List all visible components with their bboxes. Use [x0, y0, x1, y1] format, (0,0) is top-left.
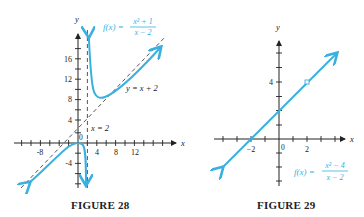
y-tick-label: 4 — [269, 78, 273, 87]
y-axis-label: y — [275, 22, 280, 32]
figure-28-caption: FIGURE 28 — [71, 199, 129, 211]
origin-label: 0 — [281, 143, 285, 152]
svg-text:x² + 1: x² + 1 — [132, 17, 152, 26]
figures-canvas: -8 4 8 12 16 12 8 4 -4 0 x y x = 2 y = x… — [0, 0, 364, 217]
oblique-asymptote-label: y = x + 2 — [125, 83, 159, 93]
hole-marker — [305, 80, 309, 84]
function-label-28: f(x) = x² + 1 x − 2 — [103, 17, 156, 37]
x-tick-label: 4 — [95, 148, 99, 157]
x-tick-label: -8 — [37, 148, 44, 157]
y-tick-label: 4 — [68, 116, 72, 125]
x-axis-label: x — [349, 134, 354, 144]
figure-29-caption: FIGURE 29 — [257, 199, 315, 211]
y-tick-label: 16 — [64, 55, 72, 64]
svg-text:x² − 4: x² − 4 — [324, 161, 344, 170]
y-tick-label: -4 — [65, 159, 72, 168]
x-tick-label: 12 — [131, 148, 139, 157]
y-tick-label: 8 — [68, 95, 72, 104]
svg-text:f(x) =: f(x) = — [294, 167, 315, 177]
oblique-asymptote — [21, 36, 166, 188]
figure-28-chart: -8 4 8 12 16 12 8 4 -4 0 x y x = 2 y = x… — [14, 14, 185, 190]
svg-text:f(x) =: f(x) = — [103, 22, 124, 32]
x-tick-label: −2 — [247, 145, 256, 154]
svg-text:x − 2: x − 2 — [134, 28, 152, 37]
svg-text:x − 2: x − 2 — [326, 173, 344, 182]
vertical-asymptote-label: x = 2 — [90, 123, 110, 133]
y-axis-label: y — [74, 14, 79, 24]
origin-label: 0 — [79, 133, 83, 142]
x-axis-label: x — [180, 138, 185, 148]
y-tick-label: 12 — [64, 75, 72, 84]
x-tick-label: 8 — [114, 148, 118, 157]
x-tick-label: 2 — [305, 145, 309, 154]
figure-29-chart: −2 2 4 0 x y f(x) = x² − 4 x − 2 — [214, 22, 354, 186]
function-label-29: f(x) = x² − 4 x − 2 — [294, 161, 348, 182]
